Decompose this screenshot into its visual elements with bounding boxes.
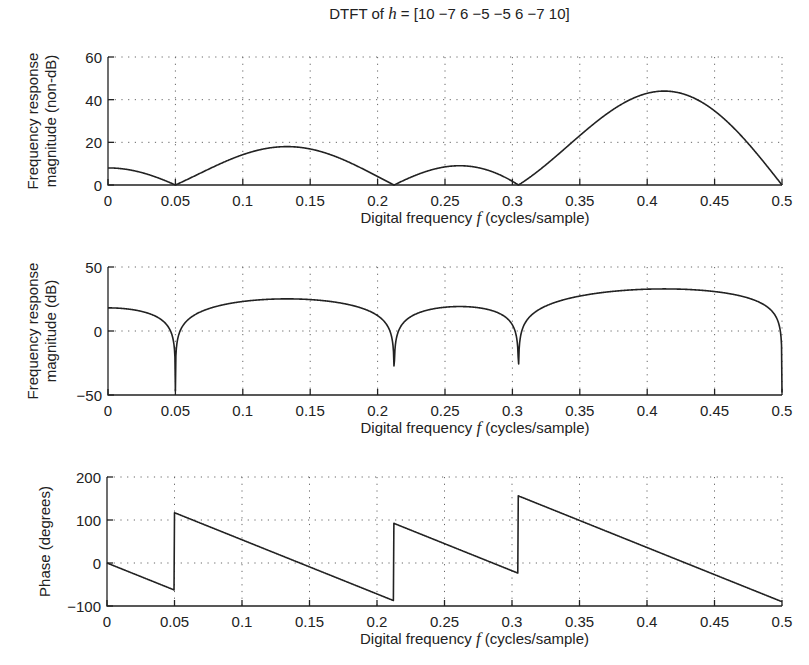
- y-tick-label: 20: [85, 134, 102, 151]
- y-tick-label: 40: [85, 92, 102, 109]
- axes: [107, 477, 782, 606]
- x-tick-label: 0.3: [502, 192, 523, 209]
- x-tick-label: 0: [103, 613, 111, 630]
- x-tick-label: 0.45: [700, 613, 729, 630]
- x-tick-label: 0.5: [772, 613, 793, 630]
- x-axis-title: Digital frequency f (cycles/sample): [361, 208, 590, 227]
- x-tick-label: 0.1: [232, 613, 253, 630]
- y-axis-title: Frequency response: [24, 263, 41, 400]
- x-tick-label: 0.15: [295, 613, 324, 630]
- x-tick-label: 0.05: [161, 402, 190, 419]
- x-tick-label: 0: [104, 402, 112, 419]
- y-axis-title: Phase (degrees): [36, 486, 53, 597]
- x-tick-label: 0.45: [700, 402, 729, 419]
- x-tick-label: 0.05: [161, 192, 190, 209]
- x-tick-label: 0.4: [637, 402, 658, 419]
- y-tick-label: −100: [67, 598, 101, 615]
- x-tick-label: 0.25: [430, 613, 459, 630]
- y-tick-label: 50: [85, 259, 102, 276]
- data-series-line: [107, 496, 782, 602]
- axes: [108, 57, 782, 185]
- grid-lines: [108, 57, 782, 185]
- y-axis-title: magnitude (dB): [42, 280, 59, 383]
- x-tick-label: 0.35: [565, 402, 594, 419]
- x-tick-label: 0.45: [700, 192, 729, 209]
- figure-canvas: 00.050.10.150.20.250.30.350.40.450.50204…: [0, 0, 809, 665]
- x-tick-label: 0.2: [367, 192, 388, 209]
- x-tick-label: 0.25: [430, 192, 459, 209]
- x-tick-label: 0.1: [232, 192, 253, 209]
- data-series-line: [108, 289, 782, 393]
- y-tick-label: 100: [76, 512, 101, 529]
- y-tick-label: 0: [94, 323, 102, 340]
- x-tick-label: 0.15: [296, 192, 325, 209]
- x-tick-label: 0.3: [502, 613, 523, 630]
- y-tick-label: 0: [94, 177, 102, 194]
- x-tick-label: 0.25: [430, 402, 459, 419]
- x-tick-label: 0.1: [232, 402, 253, 419]
- x-tick-label: 0.4: [637, 192, 658, 209]
- x-tick-label: 0.15: [296, 402, 325, 419]
- chart-panel-3: 00.050.10.150.20.250.30.350.40.450.5−100…: [36, 469, 792, 648]
- x-tick-label: 0.05: [160, 613, 189, 630]
- x-axis-title: Digital frequency f (cycles/sample): [360, 629, 589, 648]
- x-tick-label: 0.5: [772, 402, 793, 419]
- grid-lines: [108, 267, 782, 395]
- x-axis-title: Digital frequency f (cycles/sample): [361, 418, 590, 437]
- x-tick-label: 0.2: [367, 402, 388, 419]
- x-tick-label: 0: [104, 192, 112, 209]
- x-tick-label: 0.3: [502, 402, 523, 419]
- chart-panel-1: 00.050.10.150.20.250.30.350.40.450.50204…: [24, 49, 792, 227]
- y-tick-label: 60: [85, 49, 102, 66]
- x-tick-label: 0.35: [565, 192, 594, 209]
- x-tick-label: 0.35: [565, 613, 594, 630]
- y-tick-label: −50: [77, 387, 102, 404]
- y-tick-label: 200: [76, 469, 101, 486]
- chart-panel-2: 00.050.10.150.20.250.30.350.40.450.5−500…: [24, 259, 792, 437]
- x-tick-label: 0.5: [772, 192, 793, 209]
- x-tick-label: 0.4: [637, 613, 658, 630]
- x-tick-label: 0.2: [367, 613, 388, 630]
- grid-lines: [107, 477, 782, 606]
- y-axis-title: magnitude (non-dB): [42, 55, 59, 188]
- y-axis-title: Frequency response: [24, 53, 41, 190]
- y-tick-label: 0: [93, 555, 101, 572]
